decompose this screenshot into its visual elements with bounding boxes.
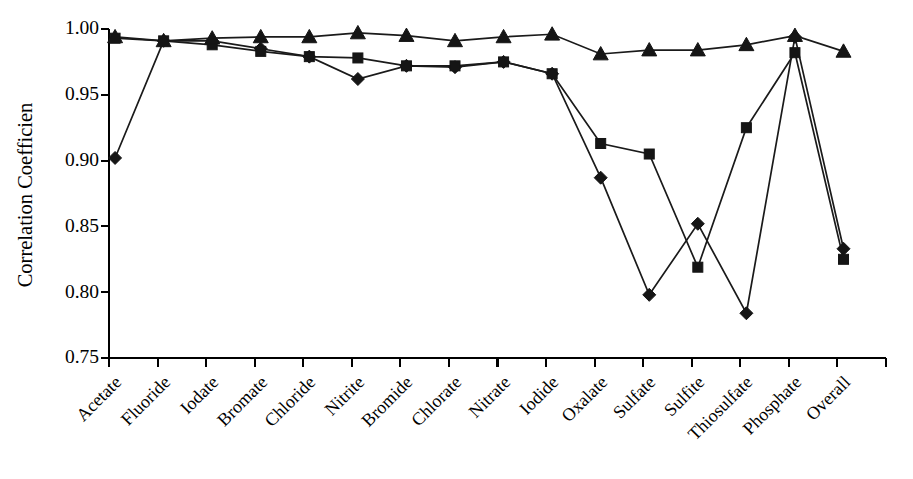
data-point-diamond	[351, 73, 364, 86]
y-tick-label: 0.85	[65, 215, 99, 236]
y-tick-label: 1.00	[65, 17, 99, 38]
data-point-square	[353, 53, 363, 63]
chart-container: Correlation Coefficien 0.750.800.850.900…	[0, 0, 913, 479]
data-point-square	[790, 48, 800, 58]
series-line-diamond	[115, 37, 843, 313]
data-point-square	[499, 57, 509, 67]
data-point-diamond	[594, 171, 607, 184]
data-point-triangle	[350, 25, 365, 38]
y-axis-title: Correlation Coefficien	[14, 103, 36, 288]
series-line-square	[115, 38, 843, 267]
series-markers-group	[108, 25, 851, 319]
data-point-diamond	[643, 288, 656, 301]
y-tick-label: 0.90	[65, 149, 99, 170]
data-point-square	[304, 52, 314, 62]
series-lines-group	[115, 33, 843, 313]
y-tick-label: 0.75	[65, 346, 99, 367]
data-point-square	[596, 138, 606, 148]
y-tick-marks	[101, 29, 109, 358]
y-tick-label-group: 0.750.800.850.900.951.00	[65, 17, 99, 367]
data-point-diamond	[740, 307, 753, 320]
data-point-triangle	[787, 28, 802, 41]
y-axis-title-text: Correlation Coefficien	[14, 103, 36, 288]
y-tick-label: 0.95	[65, 83, 99, 104]
data-point-square	[256, 46, 266, 56]
y-tick-label: 0.80	[65, 281, 99, 302]
data-point-square	[547, 69, 557, 79]
data-point-square	[839, 254, 849, 264]
x-tick-marks	[109, 358, 886, 367]
data-point-square	[693, 262, 703, 272]
data-point-diamond	[837, 242, 850, 255]
data-point-square	[741, 123, 751, 133]
data-point-square	[644, 149, 654, 159]
data-point-diamond	[691, 217, 704, 230]
data-point-square	[450, 61, 460, 71]
data-point-diamond	[109, 151, 122, 164]
data-point-square	[401, 61, 411, 71]
data-point-triangle	[545, 27, 560, 40]
